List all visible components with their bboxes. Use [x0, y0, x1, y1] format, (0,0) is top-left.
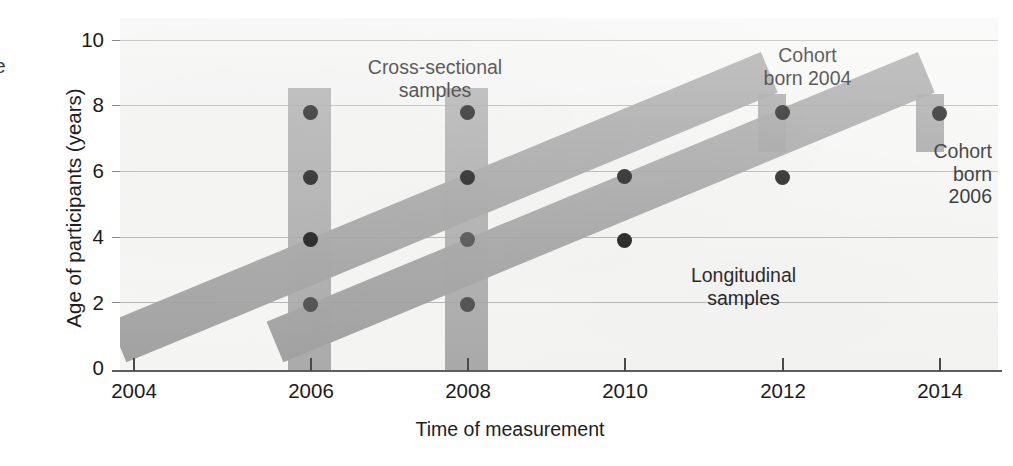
x-axis-title: Time of measurement — [380, 418, 640, 441]
y-tick-label-0: 0 — [58, 356, 104, 380]
cross-sectional-bar-2008 — [445, 88, 488, 370]
x-tick-mark-2014 — [939, 358, 941, 371]
y-tick-mark-8 — [112, 105, 120, 106]
figure-cohort-sequential-design: e Age of participants (years) 10 8 6 4 2… — [0, 0, 1013, 466]
x-tick-mark-2010 — [624, 358, 626, 371]
x-tick-label-2012: 2012 — [738, 379, 828, 403]
y-tick-mark-2 — [112, 302, 120, 303]
plot-area: Cross-sectional samples Longitudinal sam… — [120, 18, 998, 370]
y-tick-label-8: 8 — [58, 93, 104, 117]
y-tick-label-4: 4 — [58, 225, 104, 249]
datapoint-2008-age4 — [460, 232, 475, 247]
x-tick-mark-2008 — [467, 358, 469, 371]
x-tick-label-2006: 2006 — [266, 379, 356, 403]
x-tick-label-2008: 2008 — [423, 379, 513, 403]
x-tick-mark-2012 — [782, 358, 784, 371]
y-tick-mark-4 — [112, 237, 120, 238]
y-tick-label-6: 6 — [58, 159, 104, 183]
x-tick-mark-2006 — [310, 358, 312, 371]
datapoint-2008-age8 — [460, 105, 475, 120]
datapoint-2006-age4 — [303, 232, 318, 247]
datapoint-2006-age2 — [303, 297, 318, 312]
x-tick-mark-2004 — [133, 358, 135, 371]
y-tick-label-10: 10 — [58, 28, 104, 52]
datapoint-2010-age4 — [617, 233, 632, 248]
annotation-longitudinal-samples: Longitudinal samples — [636, 264, 851, 309]
x-axis-line — [112, 370, 1002, 372]
datapoint-2012-age8 — [775, 105, 790, 120]
y-tick-label-2: 2 — [58, 291, 104, 315]
x-tick-label-2014: 2014 — [895, 379, 985, 403]
annotation-cohort-born-2004: Cohort born 2004 — [700, 44, 915, 89]
datapoint-2006-age8 — [303, 105, 318, 120]
cropped-edge-glyph: e — [0, 54, 6, 78]
x-tick-label-2004: 2004 — [89, 379, 179, 403]
datapoint-2008-age6 — [460, 170, 475, 185]
datapoint-2014-age8 — [932, 106, 947, 121]
y-tick-mark-6 — [112, 171, 120, 172]
y-tick-mark-10 — [112, 40, 120, 41]
x-tick-label-2010: 2010 — [580, 379, 670, 403]
gridline-10 — [120, 40, 998, 41]
datapoint-2008-age2 — [460, 297, 475, 312]
cross-sectional-bar-2006 — [288, 88, 331, 370]
annotation-cross-sectional-samples: Cross-sectional samples — [325, 56, 545, 101]
datapoint-2010-age6 — [617, 169, 632, 184]
annotation-cohort-born-2006: Cohort born 2006 — [770, 140, 992, 208]
datapoint-2006-age6 — [303, 170, 318, 185]
